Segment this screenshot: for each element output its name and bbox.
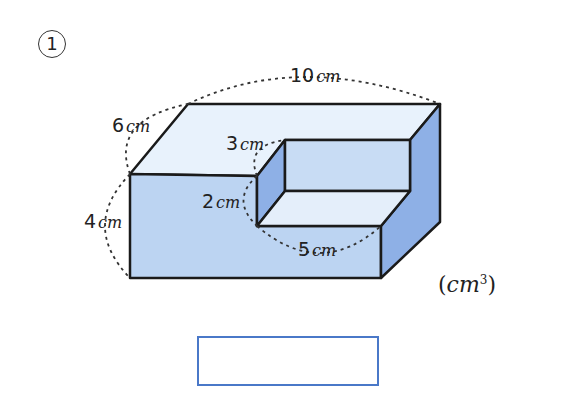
question-number: 1	[38, 30, 66, 58]
label-depth: 6cm	[112, 116, 150, 135]
label-unit: cm	[216, 193, 240, 212]
label-value: 2	[202, 190, 214, 212]
unit-text: cm	[447, 272, 480, 297]
label-cut-length: 5cm	[298, 240, 336, 259]
label-value: 5	[298, 238, 310, 260]
label-unit: cm	[312, 241, 336, 260]
label-value: 6	[112, 114, 124, 136]
answer-input-box[interactable]	[197, 336, 379, 386]
label-value: 3	[226, 132, 238, 154]
label-height: 4cm	[84, 212, 122, 231]
label-unit: cm	[240, 135, 264, 154]
unit-power: 3	[480, 273, 488, 287]
label-cut-height: 2cm	[202, 192, 240, 211]
label-cut-depth: 3cm	[226, 134, 264, 153]
label-value: 10	[290, 64, 314, 86]
label-unit: cm	[126, 117, 150, 136]
label-length: 10cm	[290, 66, 340, 85]
label-unit: cm	[98, 213, 122, 232]
label-value: 4	[84, 210, 96, 232]
label-unit: cm	[316, 67, 340, 86]
answer-unit: (cm3)	[438, 272, 496, 297]
